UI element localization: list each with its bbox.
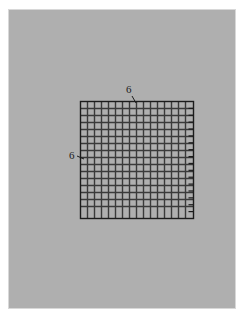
top-side-length-label: 6 [126, 84, 132, 95]
nested-corner-line [81, 179, 158, 219]
right-edge-tick-marks [189, 108, 194, 211]
geometry-diagram-canvas [0, 0, 244, 319]
figure-root: 6 6 [0, 0, 244, 319]
nested-corner-line [81, 207, 186, 219]
nested-corner-line [88, 102, 194, 109]
nested-corner-line [116, 102, 194, 137]
nested-corner-line [158, 102, 194, 179]
left-side-length-label: 6 [69, 150, 75, 161]
nested-corner-line [81, 165, 144, 219]
nested-corner-line [81, 109, 88, 219]
nested-corner-lines [81, 102, 194, 219]
